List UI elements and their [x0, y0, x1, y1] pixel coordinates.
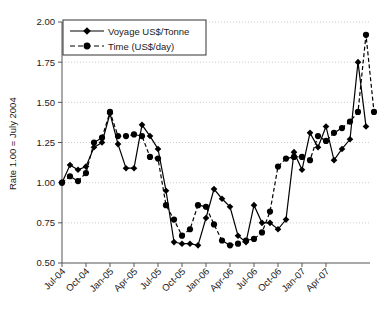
- data-point: [115, 133, 121, 139]
- data-point: [227, 242, 233, 248]
- y-axis-title: Rate 1.00 = July 2004: [7, 97, 18, 190]
- data-point: [67, 162, 74, 169]
- data-point: [59, 180, 65, 186]
- data-point: [115, 141, 122, 148]
- legend-label-time: Time (US$/day): [108, 41, 174, 52]
- y-tick-label: 1.00: [37, 177, 56, 188]
- x-tick-label: Apr-05: [111, 266, 139, 294]
- data-point: [315, 144, 322, 151]
- data-point: [179, 233, 185, 239]
- chart-legend: Voyage US$/Tonne Time (US$/day): [63, 20, 206, 55]
- y-tick-label: 1.25: [37, 137, 56, 148]
- data-point: [251, 202, 258, 209]
- x-tick-label: Jul-05: [137, 266, 163, 292]
- x-tick-label: Jul-06: [233, 266, 259, 292]
- x-tick-label: Oct-05: [159, 266, 187, 294]
- x-tick-label: Oct-06: [255, 266, 283, 294]
- data-point: [171, 239, 178, 246]
- x-tick-label: Jul-04: [41, 266, 67, 292]
- data-point: [299, 167, 306, 174]
- y-tick-label: 0.50: [37, 257, 56, 268]
- data-point: [171, 217, 177, 223]
- data-point: [355, 109, 361, 115]
- data-series-layer: [59, 32, 377, 249]
- data-point: [123, 133, 129, 139]
- data-point: [75, 178, 81, 184]
- data-point: [259, 220, 266, 227]
- y-tick-label: 2.00: [37, 16, 56, 27]
- data-point: [219, 237, 225, 243]
- data-point: [91, 139, 97, 145]
- x-axis-ticks: Jul-04Oct-04Jan-05Apr-05Jul-05Oct-05Jan-…: [41, 263, 331, 294]
- data-point: [131, 165, 138, 172]
- data-point: [203, 215, 210, 222]
- data-point: [315, 133, 321, 139]
- data-point: [307, 157, 313, 163]
- data-point: [147, 154, 153, 160]
- data-point: [83, 170, 89, 176]
- data-point: [259, 229, 265, 235]
- series-line: [62, 62, 366, 245]
- data-point: [323, 138, 329, 144]
- x-tick-label: Jan-05: [87, 266, 115, 294]
- data-point: [299, 154, 305, 160]
- chart-container: 0.500.751.001.251.501.752.00 Jul-04Oct-0…: [0, 0, 387, 310]
- data-point: [267, 208, 273, 214]
- x-tick-label: Jan-06: [183, 266, 211, 294]
- data-point: [251, 236, 257, 242]
- x-tick-label: Oct-04: [63, 266, 91, 294]
- data-point: [187, 226, 193, 232]
- data-point: [131, 131, 137, 137]
- data-point: [187, 240, 194, 247]
- data-point: [355, 59, 362, 66]
- data-point: [235, 241, 241, 247]
- data-point: [195, 202, 201, 208]
- line-chart: 0.500.751.001.251.501.752.00 Jul-04Oct-0…: [0, 0, 387, 310]
- y-axis-ticks: 0.500.751.001.251.501.752.00: [37, 16, 63, 268]
- data-point: [291, 154, 297, 160]
- y-tick-label: 1.50: [37, 97, 56, 108]
- data-point: [179, 240, 186, 247]
- data-point: [363, 32, 369, 38]
- data-point: [307, 130, 314, 137]
- data-point: [243, 237, 249, 243]
- data-point: [339, 125, 345, 131]
- data-point: [275, 164, 281, 170]
- data-point: [347, 119, 353, 125]
- data-point: [203, 204, 209, 210]
- data-point: [139, 133, 145, 139]
- data-point: [363, 123, 370, 130]
- data-point: [371, 109, 377, 115]
- data-point: [283, 155, 289, 161]
- data-point: [155, 155, 161, 161]
- x-tick-label: Jan-07: [279, 266, 307, 294]
- y-tick-label: 1.75: [37, 57, 56, 68]
- data-point: [195, 242, 202, 249]
- legend-label-voyage: Voyage US$/Tonne: [108, 26, 189, 37]
- x-tick-label: Apr-07: [303, 266, 331, 294]
- data-point: [331, 130, 337, 136]
- data-point: [107, 109, 113, 115]
- legend-circle-marker: [84, 43, 91, 50]
- data-point: [211, 221, 217, 227]
- x-tick-label: Apr-06: [207, 266, 235, 294]
- data-point: [67, 173, 73, 179]
- data-point: [123, 165, 130, 172]
- data-point: [99, 135, 105, 141]
- data-point: [323, 123, 330, 130]
- data-point: [155, 146, 162, 153]
- data-point: [163, 202, 169, 208]
- data-point: [75, 167, 82, 174]
- series-voyage: [59, 59, 370, 249]
- y-tick-label: 0.75: [37, 217, 56, 228]
